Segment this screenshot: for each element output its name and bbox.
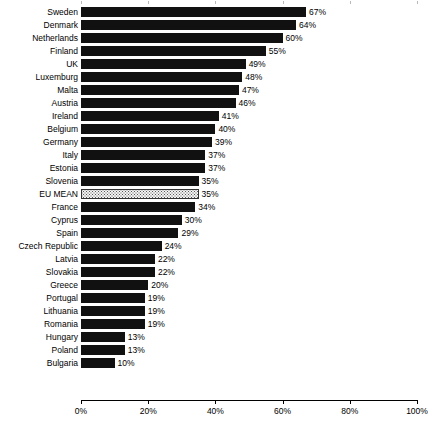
bar-track: 35% — [81, 176, 417, 186]
bar-track: 37% — [81, 163, 417, 173]
bar-value-label: 49% — [249, 59, 266, 69]
bar-row: France34% — [0, 201, 437, 214]
category-label: Spain — [56, 227, 78, 240]
bar — [81, 254, 155, 264]
bar — [81, 20, 296, 30]
bar-row: Czech Republic24% — [0, 240, 437, 253]
x-axis-tick-label: 100% — [397, 406, 437, 417]
bar-track: 64% — [81, 20, 417, 30]
bar — [81, 202, 195, 212]
axis-top-ticks — [81, 1, 417, 4]
bar — [81, 228, 178, 238]
category-label: Slovenia — [45, 175, 78, 188]
bar-track: 22% — [81, 267, 417, 277]
bar — [81, 267, 155, 277]
category-label: Finland — [50, 45, 78, 58]
bar-row: Greece20% — [0, 279, 437, 292]
bar — [81, 7, 306, 17]
bar-track: 30% — [81, 215, 417, 225]
bar — [81, 319, 145, 329]
category-label: Belgium — [47, 123, 78, 136]
bar — [81, 46, 266, 56]
x-axis-tick-label: 0% — [61, 406, 101, 417]
bar-track: 20% — [81, 280, 417, 290]
bar-value-label: 60% — [286, 33, 303, 43]
bar-track: 34% — [81, 202, 417, 212]
bar-value-label: 46% — [239, 98, 256, 108]
bar-track: 24% — [81, 241, 417, 251]
bar-value-label: 35% — [202, 189, 219, 199]
bar-row: Belgium40% — [0, 123, 437, 136]
x-axis-tick — [215, 400, 216, 404]
x-axis-tick — [350, 400, 351, 404]
bar — [81, 293, 145, 303]
category-label: Poland — [52, 344, 78, 357]
bar-value-label: 24% — [165, 241, 182, 251]
bar-track: 49% — [81, 59, 417, 69]
horizontal-bar-chart: Sweden67%Denmark64%Netherlands60%Finland… — [0, 0, 437, 425]
bar-row: Slovakia22% — [0, 266, 437, 279]
bar-row: Germany39% — [0, 136, 437, 149]
axis-top-tick — [148, 1, 149, 4]
bar-track: 60% — [81, 33, 417, 43]
category-label: Netherlands — [32, 32, 78, 45]
bar-track: 41% — [81, 111, 417, 121]
category-label: Malta — [57, 84, 78, 97]
bar-track: 37% — [81, 150, 417, 160]
category-label: UK — [66, 58, 78, 71]
bar — [81, 215, 182, 225]
bar-track: 19% — [81, 319, 417, 329]
bar — [81, 150, 205, 160]
bar-row: Romania19% — [0, 318, 437, 331]
bar — [81, 85, 239, 95]
bar-row: Sweden67% — [0, 6, 437, 19]
category-label: EU MEAN — [39, 188, 78, 201]
bar-value-label: 39% — [215, 137, 232, 147]
bar — [81, 280, 148, 290]
category-label: Estonia — [50, 162, 78, 175]
bar — [81, 33, 283, 43]
bar — [81, 137, 212, 147]
bar — [81, 98, 236, 108]
x-axis-tick-label: 40% — [195, 406, 235, 417]
bar — [81, 176, 199, 186]
bar-row: Luxemburg48% — [0, 71, 437, 84]
bar-row: Finland55% — [0, 45, 437, 58]
bar-row: EU MEAN35% — [0, 188, 437, 201]
category-label: Latvia — [55, 253, 78, 266]
category-label: Germany — [43, 136, 78, 149]
bar-row: Latvia22% — [0, 253, 437, 266]
bar-row: Netherlands60% — [0, 32, 437, 45]
category-label: Luxemburg — [35, 71, 78, 84]
x-axis-tick — [148, 400, 149, 404]
bar-track: 35% — [81, 189, 417, 199]
bar-row: Malta47% — [0, 84, 437, 97]
category-label: Slovakia — [46, 266, 78, 279]
bar-value-label: 40% — [218, 124, 235, 134]
x-axis-tick — [81, 400, 82, 404]
bar-value-label: 37% — [208, 163, 225, 173]
bar-value-label: 29% — [181, 228, 198, 238]
axis-top-tick — [283, 1, 284, 4]
x-axis-tick-label: 60% — [263, 406, 303, 417]
bar — [81, 59, 246, 69]
bar-track: 48% — [81, 72, 417, 82]
bar-track: 10% — [81, 358, 417, 368]
bar-track: 13% — [81, 345, 417, 355]
bar-value-label: 19% — [148, 306, 165, 316]
category-label: Ireland — [52, 110, 78, 123]
category-label: Sweden — [47, 6, 78, 19]
x-axis-tick — [283, 400, 284, 404]
bar-row: Austria46% — [0, 97, 437, 110]
bar-track: 47% — [81, 85, 417, 95]
bar-track: 13% — [81, 332, 417, 342]
bar-track: 19% — [81, 293, 417, 303]
category-label: Italy — [62, 149, 78, 162]
bar-row: UK49% — [0, 58, 437, 71]
bar — [81, 111, 219, 121]
axis-top-tick — [350, 1, 351, 4]
category-label: Portugal — [46, 292, 78, 305]
x-axis-tick-label: 80% — [330, 406, 370, 417]
x-axis-line — [81, 400, 417, 401]
bar-value-label: 19% — [148, 293, 165, 303]
